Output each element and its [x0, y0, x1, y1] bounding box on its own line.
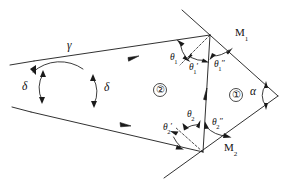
ray-upper [34, 35, 210, 61]
arrowhead-delta-right-b [91, 101, 97, 108]
label-mirror-m2-subscript: 2 [234, 150, 238, 158]
label-mirror-m1-letter: M [235, 26, 245, 38]
label-region-2: ② [156, 85, 165, 95]
arrowhead-theta1-prime-b [202, 59, 210, 63]
label-mirror-m1-subscript: 1 [245, 35, 249, 43]
extension-lower-left [12, 107, 31, 112]
label-theta2-prime: θ2′ [163, 123, 173, 134]
label-delta-right: δ [104, 82, 109, 94]
arrowhead-upper-ray [128, 56, 139, 61]
label-theta2-dprime: θ2″ [212, 118, 224, 129]
arc-alpha [262, 85, 266, 106]
mirror-line-m1 [182, 10, 278, 96]
arc-delta-left [39, 74, 43, 100]
label-theta1: θ1 [170, 53, 178, 64]
label-delta-left: δ [22, 81, 27, 93]
label-gamma: γ [67, 40, 72, 52]
extension-upper-left [10, 61, 34, 65]
arrowhead-delta-left-b [39, 97, 45, 104]
arrowhead-gamma [30, 65, 36, 75]
label-region-1: ① [232, 90, 241, 100]
label-theta1-subscript: 1 [174, 58, 177, 65]
label-mirror-m2-letter: M [224, 141, 234, 153]
arrowhead-delta-right-a [90, 74, 96, 81]
label-mirror-m1: M1 [235, 27, 248, 41]
arc-gamma [33, 62, 83, 72]
label-theta2: θ2 [187, 110, 195, 121]
label-theta1-dprime: θ1″ [214, 60, 226, 71]
arrowhead-lower-ray [120, 123, 131, 127]
label-alpha: α [250, 86, 256, 98]
optics-ray-diagram: γ δ δ α M1 M2 θ1 θ1′ θ1″ θ2′ θ2 θ2″ ② ① [0, 0, 296, 182]
label-theta1-dprime-mark: ″ [221, 58, 225, 68]
label-theta2-subscript: 2 [191, 115, 194, 122]
arc-delta-right [93, 78, 97, 104]
arrowhead-theta2-dprime-b [223, 133, 232, 138]
mirror-line-m2 [164, 96, 278, 178]
arrowhead-connecting-ray [204, 88, 207, 100]
label-theta2-dprime-mark: ″ [219, 116, 223, 126]
label-theta1-prime: θ1′ [189, 63, 199, 74]
label-mirror-m2: M2 [224, 142, 237, 156]
label-theta2-prime-mark: ′ [170, 121, 172, 131]
arrowhead-delta-left-a [40, 70, 46, 77]
label-theta1-prime-mark: ′ [196, 61, 198, 71]
arrowhead-theta1-dprime-b [226, 48, 233, 55]
arrowhead-alpha-b [264, 103, 268, 110]
